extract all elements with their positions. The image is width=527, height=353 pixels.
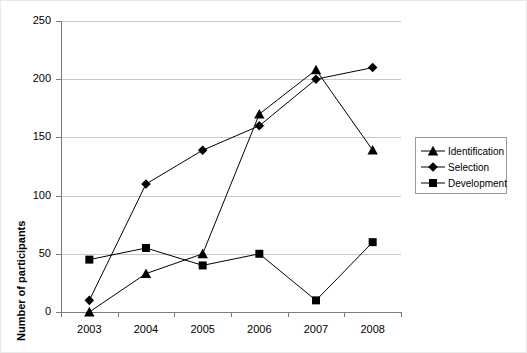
square-marker-icon [142,244,150,252]
diamond-marker-icon [421,161,445,173]
series-line [89,242,372,300]
diamond-marker-icon [141,179,151,189]
legend-item-identification[interactable]: Identification [421,143,504,159]
series-identification [84,65,378,317]
square-marker-icon [85,256,93,264]
series-development [85,238,376,304]
triangle-marker-icon [367,145,377,155]
square-marker-icon [199,261,207,269]
triangle-marker-icon [311,65,321,75]
square-marker-icon [369,238,377,246]
chart-frame: Number of participants 050100150200250 2… [0,0,527,353]
triangle-marker-icon [254,109,264,119]
triangle-marker-icon [84,307,94,317]
legend-item-selection[interactable]: Selection [421,159,489,175]
triangle-marker-icon [141,268,151,278]
square-marker-icon [421,177,445,189]
diamond-marker-icon [198,145,208,155]
diamond-marker-icon [368,63,378,73]
legend-label: Development [448,178,507,189]
legend-item-development[interactable]: Development [421,175,507,191]
chart-legend: IdentificationSelectionDevelopment [415,137,507,194]
square-marker-icon [429,179,437,187]
square-marker-icon [312,296,320,304]
legend-label: Identification [448,146,504,157]
triangle-marker-icon [421,145,445,157]
legend-label: Selection [448,162,489,173]
triangle-marker-icon [197,249,207,259]
square-marker-icon [255,250,263,258]
diamond-marker-icon [428,162,438,172]
series-line [89,70,372,312]
diamond-marker-icon [85,296,95,306]
